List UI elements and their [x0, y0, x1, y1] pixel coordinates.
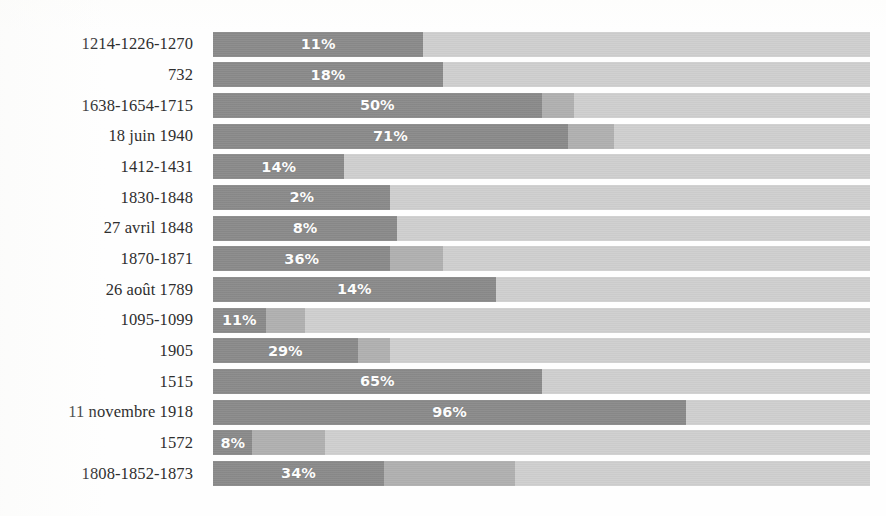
- bar-value-label: 11%: [301, 37, 336, 52]
- category-label-row: 1412-1431: [0, 152, 203, 183]
- category-label: 1808-1852-1873: [82, 466, 193, 483]
- category-label-row: 1830-1848: [0, 182, 203, 213]
- bar-row: 50%: [213, 90, 870, 121]
- bar-value-label: 50%: [360, 98, 395, 113]
- stacked-bar[interactable]: 14%: [213, 154, 870, 179]
- bar-row: 11%: [213, 29, 870, 60]
- category-label-row: 1808-1852-1873: [0, 458, 203, 489]
- category-axis: 1214-1226-12707321638-1654-171518 juin 1…: [0, 29, 203, 489]
- bar-segment-series-a[interactable]: 8%: [213, 216, 397, 241]
- stacked-bar[interactable]: 29%: [213, 338, 870, 363]
- category-label-row: 18 juin 1940: [0, 121, 203, 152]
- bar-segment-series-c[interactable]: [686, 400, 870, 425]
- bar-segment-series-a[interactable]: 11%: [213, 32, 423, 57]
- bar-value-label: 96%: [432, 405, 467, 420]
- stacked-bar[interactable]: 2%: [213, 185, 870, 210]
- bar-segment-series-a[interactable]: 2%: [213, 185, 390, 210]
- category-label: 11 novembre 1918: [68, 404, 193, 421]
- category-label-row: 1095-1099: [0, 305, 203, 336]
- stacked-bar[interactable]: 8%: [213, 216, 870, 241]
- bar-value-label: 36%: [284, 252, 319, 267]
- stacked-bar[interactable]: 71%: [213, 124, 870, 149]
- bar-segment-series-a[interactable]: 8%: [213, 430, 252, 455]
- category-label-row: 732: [0, 60, 203, 91]
- bar-segment-series-c[interactable]: [423, 32, 870, 57]
- category-label: 18 juin 1940: [108, 128, 193, 145]
- stacked-bar[interactable]: 34%: [213, 461, 870, 486]
- stacked-bar[interactable]: 8%: [213, 430, 870, 455]
- bar-segment-series-c[interactable]: [515, 461, 870, 486]
- category-label-row: 26 août 1789: [0, 274, 203, 305]
- bar-segment-series-a[interactable]: 34%: [213, 461, 384, 486]
- bar-value-label: 29%: [268, 344, 303, 359]
- stacked-bar[interactable]: 65%: [213, 369, 870, 394]
- bar-segment-series-c[interactable]: [390, 338, 870, 363]
- bar-row: 71%: [213, 121, 870, 152]
- bar-value-label: 8%: [220, 436, 245, 451]
- bar-segment-series-a[interactable]: 29%: [213, 338, 358, 363]
- bar-segment-series-c[interactable]: [397, 216, 870, 241]
- category-label: 1638-1654-1715: [82, 98, 193, 115]
- bar-segment-series-c[interactable]: [325, 430, 870, 455]
- bar-segment-series-c[interactable]: [305, 308, 870, 333]
- category-label: 1830-1848: [121, 190, 193, 207]
- bar-segment-series-b[interactable]: [266, 308, 305, 333]
- category-label-row: 1905: [0, 336, 203, 367]
- category-label-row: 1870-1871: [0, 244, 203, 275]
- category-label: 1214-1226-1270: [82, 36, 193, 53]
- bar-segment-series-a[interactable]: 14%: [213, 277, 496, 302]
- bar-segment-series-a[interactable]: 96%: [213, 400, 686, 425]
- stacked-bar[interactable]: 14%: [213, 277, 870, 302]
- stacked-bar[interactable]: 36%: [213, 246, 870, 271]
- stacked-bar[interactable]: 11%: [213, 308, 870, 333]
- bar-value-label: 71%: [373, 129, 408, 144]
- category-label: 1095-1099: [121, 312, 193, 329]
- bar-row: 11%: [213, 305, 870, 336]
- bar-segment-series-b[interactable]: [358, 338, 391, 363]
- stacked-bar-chart: 1214-1226-12707321638-1654-171518 juin 1…: [0, 0, 886, 516]
- bar-segment-series-b[interactable]: [390, 246, 443, 271]
- category-label: 1905: [160, 343, 193, 360]
- bar-value-label: 34%: [281, 466, 316, 481]
- stacked-bar[interactable]: 18%: [213, 62, 870, 87]
- bar-row: 2%: [213, 182, 870, 213]
- bar-segment-series-b[interactable]: [252, 430, 324, 455]
- bar-segment-series-a[interactable]: 14%: [213, 154, 344, 179]
- category-label-row: 1515: [0, 366, 203, 397]
- bar-segment-series-a[interactable]: 11%: [213, 308, 266, 333]
- bar-segment-series-a[interactable]: 36%: [213, 246, 390, 271]
- bar-value-label: 14%: [261, 160, 296, 175]
- bar-segment-series-c[interactable]: [496, 277, 870, 302]
- bar-segment-series-b[interactable]: [542, 93, 575, 118]
- bar-row: 29%: [213, 336, 870, 367]
- plot-area: 11%18%50%71%14%2%8%36%14%11%29%65%96%8%3…: [213, 29, 870, 489]
- bar-row: 14%: [213, 274, 870, 305]
- bar-segment-series-c[interactable]: [443, 246, 870, 271]
- stacked-bar[interactable]: 50%: [213, 93, 870, 118]
- bar-row: 65%: [213, 366, 870, 397]
- bar-value-label: 18%: [311, 68, 346, 83]
- bar-segment-series-c[interactable]: [542, 369, 871, 394]
- bar-row: 96%: [213, 397, 870, 428]
- bar-segment-series-b[interactable]: [568, 124, 614, 149]
- category-label: 1515: [160, 374, 193, 391]
- bar-segment-series-a[interactable]: 18%: [213, 62, 443, 87]
- bar-segment-series-b[interactable]: [384, 461, 515, 486]
- category-label-row: 27 avril 1848: [0, 213, 203, 244]
- stacked-bar[interactable]: 96%: [213, 400, 870, 425]
- stacked-bar[interactable]: 11%: [213, 32, 870, 57]
- category-label: 27 avril 1848: [104, 220, 193, 237]
- bar-row: 8%: [213, 428, 870, 459]
- bar-segment-series-c[interactable]: [390, 185, 870, 210]
- category-label: 1572: [160, 435, 193, 452]
- category-label-row: 1572: [0, 428, 203, 459]
- bar-segment-series-c[interactable]: [443, 62, 870, 87]
- bar-segment-series-c[interactable]: [574, 93, 870, 118]
- bar-segment-series-c[interactable]: [344, 154, 870, 179]
- category-label: 1412-1431: [121, 159, 193, 176]
- bar-segment-series-a[interactable]: 50%: [213, 93, 542, 118]
- bar-segment-series-c[interactable]: [614, 124, 870, 149]
- bar-segment-series-a[interactable]: 65%: [213, 369, 542, 394]
- bar-row: 14%: [213, 152, 870, 183]
- bar-segment-series-a[interactable]: 71%: [213, 124, 568, 149]
